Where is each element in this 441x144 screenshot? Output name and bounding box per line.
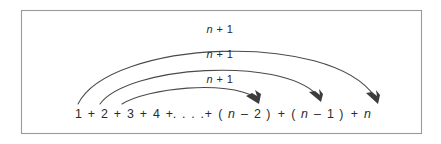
equation-term: + bbox=[278, 107, 286, 121]
equation-term: + bbox=[114, 107, 122, 121]
equation-term: 3 bbox=[127, 107, 135, 121]
equation-term: – bbox=[241, 107, 249, 121]
arc-inner-label: n + 1 bbox=[207, 73, 234, 85]
equation-term: + bbox=[351, 107, 359, 121]
equation-term: 1 bbox=[75, 107, 83, 121]
equation-term: + bbox=[140, 107, 148, 121]
equation-term: ( bbox=[218, 107, 223, 121]
equation-term: 1 bbox=[327, 107, 335, 121]
equation-term: 2 bbox=[254, 107, 262, 121]
arc-middle-label-rest: + 1 bbox=[213, 48, 233, 60]
equation-term: + bbox=[205, 107, 213, 121]
figure-container: n + 1 n + 1 n + 1 1+2+3+4+. . . .+(n–2)+… bbox=[0, 0, 441, 144]
gauss-pairing-diagram: n + 1 n + 1 n + 1 1+2+3+4+. . . .+(n–2)+… bbox=[0, 0, 441, 144]
equation-term: 4 bbox=[153, 107, 161, 121]
arc-inner-label-rest: + 1 bbox=[213, 73, 233, 85]
arc-outer-label: n + 1 bbox=[207, 23, 234, 35]
summation-equation: 1+2+3+4+. . . .+(n–2)+(n–1)+n bbox=[75, 107, 372, 121]
equation-term: n bbox=[364, 107, 372, 121]
equation-term: n bbox=[301, 107, 309, 121]
equation-term: + bbox=[88, 107, 96, 121]
equation-term: n bbox=[228, 107, 236, 121]
equation-term: . . . . bbox=[173, 107, 206, 121]
arc-outer-label-rest: + 1 bbox=[213, 23, 233, 35]
arc-middle-label: n + 1 bbox=[207, 48, 234, 60]
equation-term: ) bbox=[339, 107, 344, 121]
equation-term: ) bbox=[266, 107, 271, 121]
arc-label-group: n + 1 n + 1 n + 1 bbox=[207, 23, 234, 85]
equation-term: 2 bbox=[101, 107, 109, 121]
equation-term: – bbox=[314, 107, 322, 121]
equation-term: ( bbox=[291, 107, 296, 121]
